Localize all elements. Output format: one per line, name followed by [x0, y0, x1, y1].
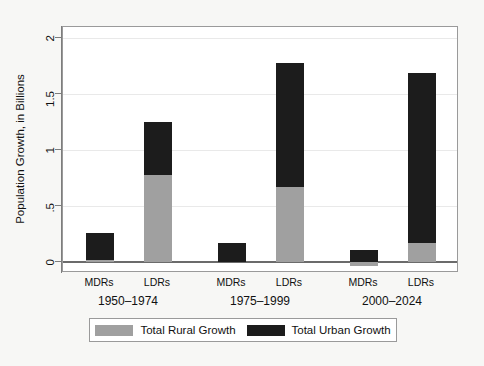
x-axis-group-label: 1950–1974 — [73, 294, 183, 308]
gridline — [63, 206, 457, 207]
bar-segment-rural — [276, 187, 304, 262]
y-axis-title: Population Growth, in Billions — [12, 26, 28, 272]
gridline — [63, 94, 457, 95]
legend-item: Total Urban Growth — [247, 324, 391, 336]
x-axis-group-label: 2000–2024 — [337, 294, 447, 308]
x-axis-group-label: 1975–1999 — [205, 294, 315, 308]
y-axis-tick-label: .5 — [44, 203, 56, 213]
bar — [350, 27, 378, 273]
bar — [218, 27, 246, 273]
x-axis-category-label: MDRs — [206, 276, 256, 288]
gridline — [63, 38, 457, 39]
gridline — [63, 150, 457, 151]
bar-segment-urban — [408, 73, 436, 243]
bar-segment-urban — [218, 243, 246, 262]
plot-area — [63, 27, 457, 271]
y-axis-tick-label: 1.5 — [44, 91, 56, 107]
bar-segment-rural — [86, 260, 114, 262]
bar-segment-urban — [350, 250, 378, 262]
y-axis-tick-label: 0 — [44, 259, 56, 265]
x-axis-category-label: LDRs — [132, 276, 182, 288]
y-axis-tick — [55, 205, 61, 206]
bar-segment-urban — [144, 122, 172, 175]
x-axis-category-label: LDRs — [396, 276, 446, 288]
y-axis-tick-label: 2 — [44, 35, 56, 41]
x-axis-labels: MDRsLDRs1950–1974MDRsLDRs1975–1999MDRsLD… — [62, 276, 458, 316]
bar — [144, 27, 172, 273]
bar — [408, 27, 436, 273]
y-axis-tick-label: 1 — [44, 147, 56, 153]
bar-segment-urban — [276, 63, 304, 187]
legend-item: Total Rural Growth — [95, 324, 235, 336]
bar-segment-urban — [86, 233, 114, 260]
bar — [86, 27, 114, 273]
bar-segment-rural-negative — [350, 262, 378, 266]
legend-swatch — [247, 325, 285, 336]
bar — [276, 27, 304, 273]
zero-line — [63, 261, 457, 263]
chart-legend: Total Rural GrowthTotal Urban Growth — [89, 318, 397, 342]
x-axis-category-label: MDRs — [74, 276, 124, 288]
x-axis-category-label: LDRs — [264, 276, 314, 288]
legend-label: Total Rural Growth — [140, 324, 235, 336]
y-axis-title-label: Population Growth, in Billions — [14, 74, 26, 224]
bar-segment-rural — [144, 175, 172, 262]
bar-segment-rural — [408, 243, 436, 262]
chart-figure: Population Growth, in Billions 21.51.50 … — [0, 0, 484, 366]
legend-label: Total Urban Growth — [292, 324, 391, 336]
x-axis-category-label: MDRs — [338, 276, 388, 288]
plot-frame — [62, 26, 458, 272]
legend-swatch — [95, 325, 133, 336]
